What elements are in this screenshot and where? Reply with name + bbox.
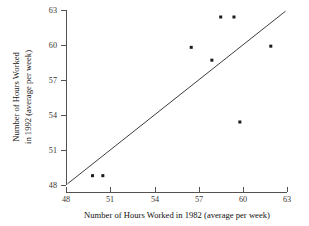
y-tick-label-51: 51: [49, 146, 57, 155]
y-tick-label-48: 48: [49, 181, 57, 190]
data-point: [269, 45, 272, 48]
reference-line: [67, 11, 285, 184]
data-point: [91, 174, 94, 177]
x-tick-label-48: 48: [62, 195, 70, 204]
data-point: [101, 174, 104, 177]
y-axis-title-line1: Number of Hours Worked: [11, 51, 21, 141]
x-tick-label-60: 60: [239, 195, 247, 204]
x-tick-label-51: 51: [106, 195, 114, 204]
x-axis-ticks: [66, 187, 287, 192]
y-axis-title-line2: in 1992 (average per week): [23, 50, 33, 144]
data-point: [190, 46, 193, 49]
chart-canvas: 63 60 57 54 51 48 48 51 54 57 60 63 Numb…: [0, 0, 309, 226]
data-points-group: [91, 16, 272, 178]
x-axis-title: Number of Hours Worked in 1982 (average …: [84, 210, 270, 220]
y-tick-label-54: 54: [49, 111, 57, 120]
x-tick-label-57: 57: [195, 195, 203, 204]
x-tick-label-54: 54: [151, 195, 159, 204]
data-point: [210, 59, 213, 62]
data-point: [238, 121, 241, 124]
y-axis-ticks: [61, 10, 66, 185]
scatter-chart: 63 60 57 54 51 48 48 51 54 57 60 63 Numb…: [0, 0, 309, 226]
y-tick-label-60: 60: [49, 41, 57, 50]
data-point: [232, 16, 235, 19]
x-tick-label-63: 63: [283, 195, 291, 204]
y-tick-label-57: 57: [49, 76, 57, 85]
y-tick-label-63: 63: [49, 6, 57, 15]
data-point: [219, 16, 222, 19]
